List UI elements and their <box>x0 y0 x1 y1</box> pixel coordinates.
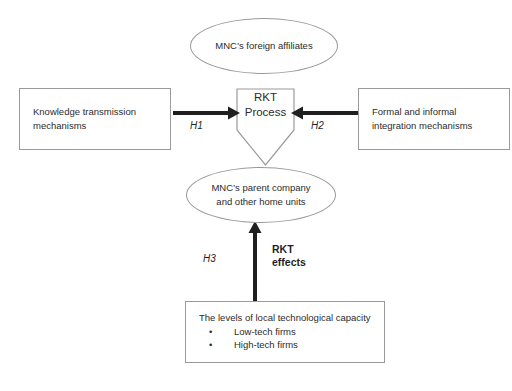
list-item-label: Low-tech firms <box>234 326 296 337</box>
arrow-h3-icon <box>246 219 264 302</box>
list-item-label: High-tech firms <box>234 339 298 350</box>
diagram-canvas: MNC’s foreign affiliates Knowledge trans… <box>0 0 512 391</box>
bullet-dot-icon: • <box>209 325 212 338</box>
list-item: • High-tech firms <box>209 338 298 351</box>
node-knowledge-transmission-mechanisms: Knowledge transmission mechanisms <box>19 88 171 150</box>
node-integration-mechanisms-label: Formal and informal integration mechanis… <box>372 105 472 133</box>
node-foreign-affiliates: MNC’s foreign affiliates <box>190 18 338 74</box>
node-local-technological-capacity-lead: The levels of local technological capaci… <box>199 311 371 324</box>
node-rkt-process: RKT Process <box>236 88 295 166</box>
node-parent-company: MNC’s parent company and other home unit… <box>186 167 336 223</box>
node-integration-mechanisms: Formal and informal integration mechanis… <box>358 88 510 150</box>
node-rkt-process-label: RKT Process <box>236 88 295 120</box>
arrow-h2-icon <box>289 104 359 122</box>
arrow-h1-label: H1 <box>190 120 203 131</box>
node-foreign-affiliates-label: MNC’s foreign affiliates <box>215 39 312 53</box>
node-knowledge-transmission-mechanisms-label: Knowledge transmission mechanisms <box>33 105 136 133</box>
pentagon-shape-icon <box>236 88 295 166</box>
technological-capacity-bullet-list: • Low-tech firms • High-tech firms <box>199 325 298 351</box>
rkt-effects-label: RKT effects <box>272 243 306 269</box>
bullet-dot-icon: • <box>209 338 212 351</box>
node-parent-company-label: MNC’s parent company and other home unit… <box>211 181 310 209</box>
arrow-h2-label: H2 <box>311 120 324 131</box>
arrow-h3-label: H3 <box>203 253 216 264</box>
list-item: • Low-tech firms <box>209 325 298 338</box>
node-local-technological-capacity: The levels of local technological capaci… <box>185 301 385 363</box>
arrow-h1-icon <box>172 104 242 122</box>
